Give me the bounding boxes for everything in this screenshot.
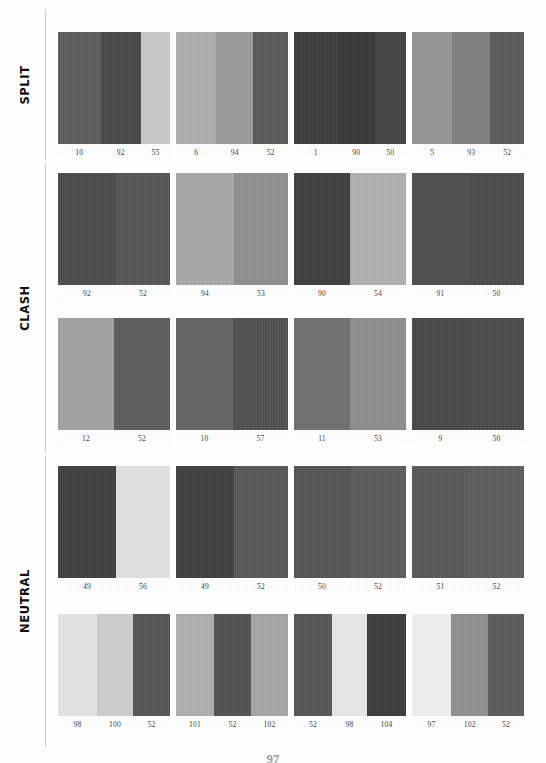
color-swatch[interactable] [141,32,170,144]
swatch-bars [412,466,524,578]
swatch-card-split-2[interactable]: 69452 [176,32,288,157]
swatch-bars [412,318,524,430]
color-swatch[interactable] [294,614,332,716]
swatch-card-neutral-8[interactable]: 9710252 [412,614,524,729]
color-swatch[interactable] [294,318,350,430]
color-swatch[interactable] [58,32,101,144]
swatch-card-clash-3[interactable]: 9054 [294,173,406,298]
swatch-card-clash-5[interactable]: 1252 [58,318,170,443]
color-swatch[interactable] [234,173,288,285]
swatch-number-labels: 69452 [176,148,288,157]
swatch-card-neutral-3[interactable]: 5052 [294,466,406,591]
color-number: 93 [452,148,490,157]
swatch-card-clash-6[interactable]: 1057 [176,318,288,443]
color-swatch[interactable] [116,173,170,285]
color-swatch[interactable] [375,32,406,144]
color-number: 100 [97,720,133,729]
color-number: 90 [338,148,375,157]
swatch-number-labels: 9054 [294,289,406,298]
swatch-card-split-1[interactable]: 109255 [58,32,170,157]
section-label-clash: CLASH [14,163,36,453]
color-swatch[interactable] [469,466,524,578]
color-swatch[interactable] [114,318,170,430]
color-swatch[interactable] [338,32,375,144]
color-number: 53 [350,434,406,443]
color-swatch[interactable] [412,173,469,285]
swatch-card-neutral-6[interactable]: 10152102 [176,614,288,729]
swatch-card-clash-8[interactable]: 950 [412,318,524,443]
swatch-number-labels: 5298104 [294,720,406,729]
section-clash: CLASH9252945390549150125210571153950 [0,163,546,453]
color-swatch[interactable] [233,318,288,430]
color-swatch[interactable] [469,173,524,285]
color-swatch[interactable] [412,318,469,430]
color-number: 49 [58,582,116,591]
color-swatch[interactable] [367,614,406,716]
section-split: SPLIT109255694521905059352 [0,10,546,160]
color-number: 55 [141,148,170,157]
color-swatch[interactable] [412,32,452,144]
color-number: 12 [58,434,114,443]
color-swatch[interactable] [350,173,406,285]
swatch-card-split-3[interactable]: 19050 [294,32,406,157]
color-swatch[interactable] [253,32,288,144]
swatch-card-neutral-7[interactable]: 5298104 [294,614,406,729]
color-swatch[interactable] [176,173,234,285]
swatch-card-neutral-5[interactable]: 9810052 [58,614,170,729]
swatch-number-labels: 9810052 [58,720,170,729]
color-swatch[interactable] [451,614,488,716]
color-swatch[interactable] [294,466,350,578]
color-swatch[interactable] [176,466,234,578]
swatch-number-labels: 19050 [294,148,406,157]
color-swatch[interactable] [58,318,114,430]
color-swatch[interactable] [176,32,216,144]
swatch-card-clash-4[interactable]: 9150 [412,173,524,298]
swatch-row-neutral-row-2: 98100521015210252981049710252 [45,614,546,729]
color-swatch[interactable] [58,466,116,578]
color-swatch[interactable] [133,614,170,716]
section-label-text: NEUTRAL [18,569,32,633]
color-number: 52 [114,434,170,443]
color-swatch[interactable] [294,173,350,285]
swatch-card-clash-2[interactable]: 9453 [176,173,288,298]
section-label-text: SPLIT [18,65,32,104]
swatch-card-clash-7[interactable]: 1153 [294,318,406,443]
color-swatch[interactable] [176,318,233,430]
swatch-card-split-4[interactable]: 59352 [412,32,524,157]
swatch-card-neutral-4[interactable]: 5152 [412,466,524,591]
color-number: 6 [176,148,216,157]
color-swatch[interactable] [488,614,524,716]
swatch-card-neutral-2[interactable]: 4952 [176,466,288,591]
color-swatch[interactable] [101,32,141,144]
color-swatch[interactable] [350,466,406,578]
color-number: 104 [367,720,406,729]
swatch-card-clash-1[interactable]: 9252 [58,173,170,298]
color-number: 52 [234,582,288,591]
color-swatch[interactable] [58,614,97,716]
color-swatch[interactable] [216,32,253,144]
color-swatch[interactable] [214,614,251,716]
color-swatch[interactable] [176,614,214,716]
color-swatch[interactable] [412,614,451,716]
color-number: 97 [412,720,451,729]
color-swatch[interactable] [97,614,133,716]
color-swatch[interactable] [412,466,469,578]
swatch-bars [294,32,406,144]
color-number: 90 [294,289,350,298]
color-swatch[interactable] [469,318,524,430]
color-swatch[interactable] [350,318,406,430]
color-swatch[interactable] [251,614,288,716]
color-swatch[interactable] [294,32,338,144]
color-number: 52 [214,720,251,729]
color-swatch[interactable] [332,614,367,716]
swatch-bars [58,614,170,716]
color-swatch[interactable] [116,466,170,578]
color-number: 91 [412,289,469,298]
swatch-number-labels: 4956 [58,582,170,591]
swatch-card-neutral-1[interactable]: 4956 [58,466,170,591]
color-swatch[interactable] [58,173,116,285]
color-number: 10 [58,148,101,157]
color-swatch[interactable] [234,466,288,578]
color-swatch[interactable] [490,32,524,144]
color-swatch[interactable] [452,32,490,144]
